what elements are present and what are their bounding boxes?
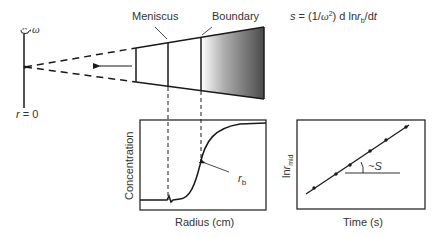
data-point [334, 172, 337, 175]
data-point [312, 186, 315, 189]
rb-label: rb [238, 172, 247, 187]
sedimentation-equation: s = (1/ω2) d lnrb/dt [290, 10, 378, 24]
projection-bottom [25, 67, 136, 82]
radius-axis-label: Radius (cm) [175, 216, 234, 228]
slope-label: ~S [368, 160, 382, 172]
slope-angle-arc [361, 162, 363, 173]
concentration-axis-label: Concentration [123, 132, 135, 201]
meniscus-pointer [155, 27, 167, 39]
data-point [404, 125, 407, 128]
ln-rmid-plot [297, 120, 425, 209]
plot-frame-left [140, 120, 266, 210]
data-point [384, 138, 387, 141]
boundary-pointer [202, 27, 212, 35]
boundary-label: Boundary [212, 10, 260, 22]
time-axis-label: Time (s) [343, 216, 383, 228]
fit-line [306, 125, 409, 194]
ln-rmid-axis-label: lnrmid [280, 154, 294, 178]
sedimentation-diagram: ω r = 0 Meniscus Boundary s = (1/ω2) d l… [0, 0, 434, 238]
sample-cell [136, 27, 264, 99]
rotation-icon [21, 31, 29, 34]
rb-pointer [205, 163, 229, 172]
concentration-plot [140, 120, 266, 210]
omega-label: ω [32, 23, 40, 35]
plot-frame-right [297, 120, 425, 209]
r-zero-label: r = 0 [16, 108, 38, 120]
concentration-curve [140, 123, 266, 202]
data-point [348, 163, 351, 166]
projection-top [25, 48, 136, 67]
meniscus-label: Meniscus [132, 10, 179, 22]
data-point [368, 149, 371, 152]
